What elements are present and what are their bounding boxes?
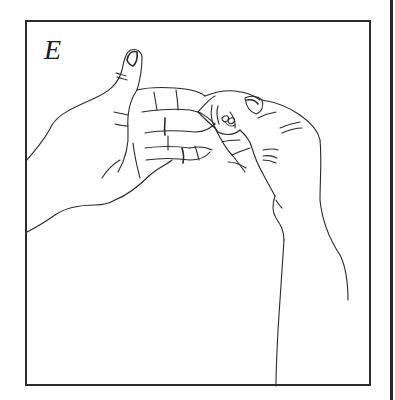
hands-illustration — [0, 0, 395, 400]
right-hand-drawing — [215, 96, 348, 386]
folded-item-drawing — [198, 91, 260, 135]
left-hand-drawing — [27, 49, 215, 232]
